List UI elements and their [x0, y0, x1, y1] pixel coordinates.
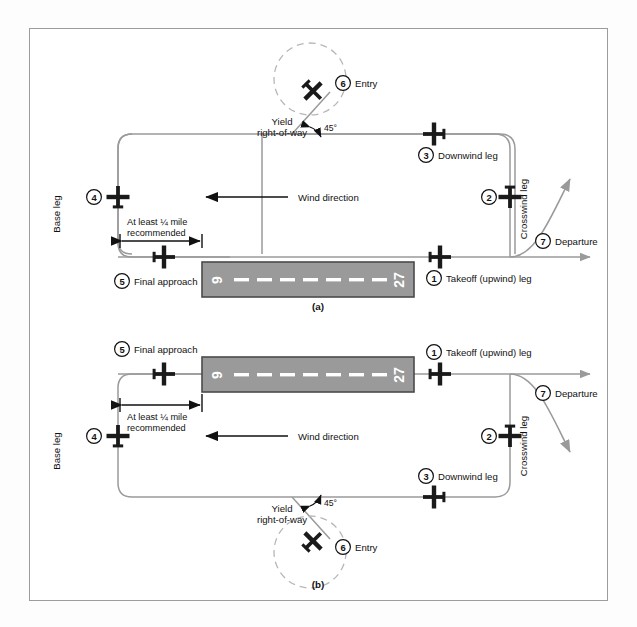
wind-direction-label-a: Wind direction [298, 192, 359, 203]
runway-a: 9 27 [202, 262, 414, 297]
callout-3-b[interactable]: 3 Downwind leg [419, 469, 498, 484]
runway-number-left-b: 9 [209, 371, 225, 379]
callout-6-label-b: Entry [355, 542, 378, 553]
callout-6-number-a: 6 [340, 78, 345, 89]
callout-5-label-b: Final approach [134, 344, 197, 355]
panel-b: 9 27 Wind direction At least ¼ mile reco… [30, 316, 607, 602]
callout-1-number-a: 1 [431, 273, 436, 284]
callout-3-label-b: Downwind leg [438, 471, 498, 482]
runway-number-right-a: 27 [391, 272, 407, 288]
wind-direction-a: Wind direction [206, 192, 359, 203]
callout-4-a[interactable]: 4 [87, 190, 102, 205]
aircraft-entry-b [297, 525, 329, 557]
panel-caption-a: (a) [312, 301, 324, 312]
wind-direction-b: Wind direction [206, 431, 359, 442]
wind-direction-label-b: Wind direction [298, 431, 359, 442]
callout-5-number-b: 5 [119, 344, 124, 355]
quarter-mile-dimension-a: At least ¼ mile recommended [120, 217, 202, 248]
aircraft-entry-a [297, 75, 329, 107]
callout-7-number-a: 7 [540, 236, 545, 247]
yield-line1-b: Yield [272, 503, 293, 514]
entry-angle-label-b: 45° [324, 498, 337, 508]
callout-5-a[interactable]: 5 Final approach [115, 274, 198, 289]
callout-4-b[interactable]: 4 [87, 429, 102, 444]
runway-number-right-b: 27 [391, 367, 407, 383]
entry-angle-label-a: 45° [324, 123, 337, 133]
aircraft-takeoff-b [429, 363, 451, 386]
aircraft-downwind-b [423, 486, 445, 509]
figure-canvas: 9 27 Wind direction At least ¼ mile reco… [0, 0, 637, 627]
aircraft-final-a [153, 246, 175, 269]
callout-5-b[interactable]: 5 Final approach [115, 342, 198, 357]
quarter-mile-line1-a: At least ¼ mile [127, 217, 187, 227]
callout-2-number-a: 2 [486, 192, 491, 203]
crosswind-leg-label-b: Crosswind leg [518, 416, 529, 476]
entry-angle-a: 45° [310, 123, 337, 137]
quarter-mile-dimension-b: At least ¼ mile recommended [120, 394, 202, 433]
yield-line1-a: Yield [272, 116, 293, 127]
aircraft-takeoff-a [429, 246, 451, 269]
callout-7-number-b: 7 [540, 388, 545, 399]
aircraft-downwind-a [423, 123, 445, 146]
callout-6-number-b: 6 [340, 542, 345, 553]
callout-7-label-b: Departure [555, 388, 598, 399]
aircraft-final-b [153, 363, 175, 386]
callout-7-b[interactable]: 7 Departure [536, 386, 598, 401]
figure-frame: 9 27 Wind direction At least ¼ mile reco… [29, 28, 608, 601]
callout-3-a[interactable]: 3 Downwind leg [419, 148, 498, 163]
panel-caption-b: (b) [312, 579, 325, 590]
callout-3-number-a: 3 [423, 150, 428, 161]
yield-line2-a: right-of-way [257, 127, 307, 138]
callout-7-label-a: Departure [555, 236, 598, 247]
runway-number-left-a: 9 [209, 276, 225, 284]
callout-3-number-b: 3 [423, 471, 428, 482]
quarter-mile-line2-b: recommended [127, 423, 186, 433]
yield-circle-a [274, 43, 346, 115]
callout-4-number-a: 4 [91, 192, 97, 203]
callout-7-a[interactable]: 7 Departure [536, 234, 598, 249]
crosswind-leg-label-a: Crosswind leg [518, 179, 529, 239]
callout-5-number-a: 5 [119, 276, 124, 287]
callout-1-b[interactable]: 1 Takeoff (upwind) leg [427, 345, 532, 360]
panel-a: 9 27 Wind direction At least ¼ mile reco… [30, 29, 607, 316]
quarter-mile-line2-a: recommended [127, 228, 186, 238]
callout-5-label-a: Final approach [134, 276, 197, 287]
callout-2-number-b: 2 [486, 431, 491, 442]
callout-1-a[interactable]: 1 Takeoff (upwind) leg [427, 271, 532, 286]
callout-1-number-b: 1 [431, 347, 436, 358]
quarter-mile-line1-b: At least ¼ mile [127, 412, 187, 422]
callout-2-b[interactable]: 2 [482, 429, 497, 444]
aircraft-base-leg-a [107, 186, 130, 208]
runway-b: 9 27 [202, 357, 414, 392]
callout-1-label-a: Takeoff (upwind) leg [446, 273, 532, 284]
callout-3-label-a: Downwind leg [438, 150, 498, 161]
base-leg-label-b: Base leg [51, 432, 62, 469]
yield-circle-b [274, 516, 346, 588]
callout-4-number-b: 4 [91, 431, 97, 442]
callout-6-label-a: Entry [355, 78, 378, 89]
callout-6-b[interactable]: 6 Entry [336, 540, 378, 555]
callout-1-label-b: Takeoff (upwind) leg [446, 347, 532, 358]
callout-2-a[interactable]: 2 [482, 190, 497, 205]
callout-6-a[interactable]: 6 Entry [336, 76, 378, 91]
base-leg-label-a: Base leg [51, 195, 62, 232]
yield-line2-b: right-of-way [257, 514, 307, 525]
